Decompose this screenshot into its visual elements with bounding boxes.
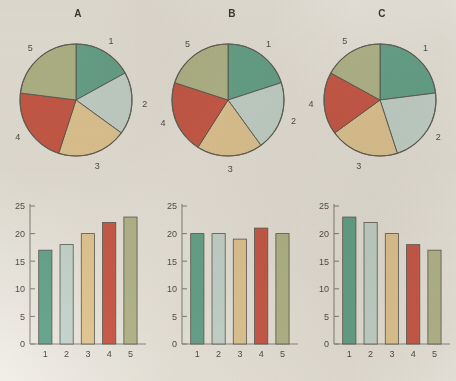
y-tick-label: 5 — [172, 312, 177, 322]
panel-b: B 12345 051015202512345 — [152, 0, 304, 381]
x-tick-label: 2 — [368, 349, 373, 359]
y-tick-label: 0 — [172, 339, 177, 349]
pie-chart-b: 12345 — [152, 26, 304, 178]
y-tick-label: 20 — [15, 229, 25, 239]
x-tick-label: 5 — [432, 349, 437, 359]
pie-slice-label: 4 — [161, 118, 166, 128]
pie-slice-label: 5 — [28, 43, 33, 53]
pie-chart-c: 12345 — [304, 26, 456, 178]
y-tick-label: 25 — [319, 201, 329, 211]
x-tick-label: 1 — [347, 349, 352, 359]
pie-slice-label: 1 — [266, 39, 271, 49]
x-tick-label: 5 — [280, 349, 285, 359]
bar-chart-c: 051015202512345 — [304, 192, 456, 377]
y-tick-label: 10 — [167, 284, 177, 294]
y-tick-label: 0 — [324, 339, 329, 349]
pie-slice-label: 4 — [309, 99, 314, 109]
y-tick-label: 25 — [15, 201, 25, 211]
pie-slice-label: 5 — [342, 36, 347, 46]
panel-c-title: C — [306, 8, 456, 19]
pie-slice-label: 5 — [185, 39, 190, 49]
y-tick-label: 0 — [20, 339, 25, 349]
pie-slice-label: 2 — [436, 132, 441, 142]
x-tick-label: 5 — [128, 349, 133, 359]
panel-a: A 12345 051015202512345 — [0, 0, 152, 381]
y-tick-label: 15 — [319, 257, 329, 267]
x-tick-label: 3 — [85, 349, 90, 359]
x-tick-label: 2 — [216, 349, 221, 359]
pie-slice-label: 2 — [291, 116, 296, 126]
pie-slice-label: 2 — [142, 99, 147, 109]
x-tick-label: 4 — [411, 349, 416, 359]
panel-b-title: B — [156, 8, 308, 19]
y-tick-label: 10 — [319, 284, 329, 294]
y-tick-label: 20 — [319, 229, 329, 239]
bar-chart-a: 051015202512345 — [0, 192, 152, 377]
x-tick-label: 2 — [64, 349, 69, 359]
pie-a-svg — [0, 26, 152, 178]
y-tick-label: 20 — [167, 229, 177, 239]
pie-slice-label: 1 — [109, 36, 114, 46]
y-tick-label: 15 — [167, 257, 177, 267]
bar-c-svg: 051015202512345 — [304, 192, 456, 377]
pie-slice-label: 4 — [15, 132, 20, 142]
y-tick-label: 25 — [167, 201, 177, 211]
pie-slice-label: 3 — [95, 161, 100, 171]
x-tick-label: 3 — [237, 349, 242, 359]
y-tick-label: 10 — [15, 284, 25, 294]
pie-chart-a: 12345 — [0, 26, 152, 178]
pie-b-svg — [152, 26, 304, 178]
pie-slice-label: 3 — [228, 164, 233, 174]
y-tick-label: 5 — [324, 312, 329, 322]
x-tick-label: 1 — [195, 349, 200, 359]
panel-c: C 12345 051015202512345 — [304, 0, 456, 381]
panel-a-title: A — [2, 8, 154, 19]
figure-panels: A 12345 051015202512345 B 12345 05101520… — [0, 0, 456, 381]
bar-chart-b: 051015202512345 — [152, 192, 304, 377]
pie-slice-label: 3 — [356, 161, 361, 171]
x-tick-label: 3 — [389, 349, 394, 359]
pie-c-svg — [304, 26, 456, 178]
bar-b-svg: 051015202512345 — [152, 192, 304, 377]
x-tick-label: 1 — [43, 349, 48, 359]
y-tick-label: 15 — [15, 257, 25, 267]
y-tick-label: 5 — [20, 312, 25, 322]
bar-a-svg: 051015202512345 — [0, 192, 152, 377]
pie-slice-label: 1 — [423, 43, 428, 53]
x-tick-label: 4 — [107, 349, 112, 359]
x-tick-label: 4 — [259, 349, 264, 359]
